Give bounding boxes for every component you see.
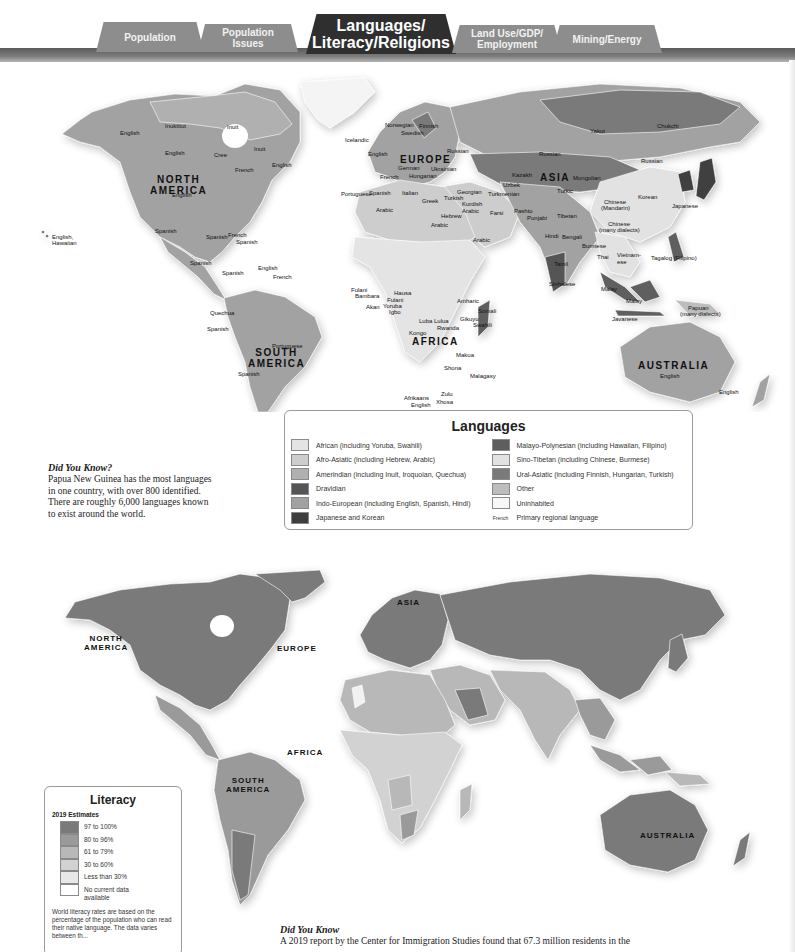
continent-label-africa: AFRICA xyxy=(412,336,459,347)
map-label: French xyxy=(273,274,292,281)
continent-label-africa: AFRICA xyxy=(287,748,323,757)
continent-label-asia: ASIA xyxy=(540,172,570,183)
map-label: Norwegian xyxy=(385,122,414,129)
map-label: Russian xyxy=(641,158,663,165)
languages-legend-title: Languages xyxy=(285,418,692,436)
map-label: Russian xyxy=(447,148,469,155)
legend-swatch xyxy=(492,497,510,509)
map-label: Quechua xyxy=(210,310,234,317)
map-label: Amharic xyxy=(457,298,479,305)
legend-item-afro-asiatic: Afro-Asiatic (including Hebrew, Arabic) xyxy=(291,453,491,468)
legend-swatch xyxy=(291,454,309,466)
map-label: Thai xyxy=(597,254,609,261)
map-label: Bambara xyxy=(355,293,379,300)
legend-column-left: African (including Yoruba, Swahili) Afro… xyxy=(291,438,491,525)
map-label: Hawaiian xyxy=(52,240,77,247)
continent-label-europe: EUROPE xyxy=(400,154,451,165)
map-label: English xyxy=(368,151,388,158)
did-you-know-languages: Did You Know? Papua New Guinea has the m… xyxy=(48,462,278,520)
map-label: Spanish xyxy=(190,260,212,267)
legend-item-ural-asiatic: Ural-Asiatic (including Finnish, Hungari… xyxy=(492,467,692,482)
map-label: Spanish xyxy=(206,234,228,241)
tab-mining-energy[interactable]: Mining/Energy xyxy=(552,25,662,53)
legend-swatch xyxy=(60,834,79,847)
continent-label-europe: EUROPE xyxy=(277,644,317,653)
legend-swatch xyxy=(492,483,510,495)
map-label: Swedish xyxy=(401,130,424,137)
map-label: French xyxy=(380,174,399,181)
map-label: Pashto xyxy=(514,208,533,215)
legend-item-other: Other xyxy=(492,482,692,497)
map-label: Turkic xyxy=(557,188,573,195)
map-label: Spanish xyxy=(207,326,229,333)
literacy-legend-title: Literacy xyxy=(52,793,174,807)
map-label: Yakut xyxy=(590,128,605,135)
map-label: English xyxy=(172,192,192,199)
literacy-legend-note: World literacy rates are based on the pe… xyxy=(52,908,174,940)
legend-swatch xyxy=(492,454,510,466)
map-label: German xyxy=(398,165,420,172)
legend-item-indo-european: Indo-European (including English, Spanis… xyxy=(291,496,491,511)
tab-land-use-gdp-employment[interactable]: Land Use/GDP/ Employment xyxy=(452,25,562,53)
legend-swatch xyxy=(291,439,309,451)
map-label: Finnish xyxy=(419,123,438,130)
map-label: English xyxy=(272,162,292,169)
legend-item-97-100: 97 to 100% xyxy=(60,821,174,834)
map-label: Farsi xyxy=(490,210,503,217)
map-label: Tamil xyxy=(554,261,568,268)
tab-label: Population xyxy=(124,32,176,43)
continent-label-asia: ASIA xyxy=(397,598,420,607)
tab-population[interactable]: Population xyxy=(96,22,204,52)
map-label: Kongo xyxy=(409,330,426,337)
map-label: Russian xyxy=(539,151,561,158)
map-label: Burmese xyxy=(582,243,606,250)
did-you-know-immigration: Did You Know A 2019 report by the Center… xyxy=(280,924,795,948)
tab-label: Literacy/Religions xyxy=(312,34,450,51)
legend-item-primary-language: FrenchPrimary regional language xyxy=(492,511,692,526)
map-label: Xhosa xyxy=(436,399,453,406)
map-label: Tibetan xyxy=(557,213,577,220)
map-label: Luba Lulua xyxy=(419,318,449,325)
map-label: Arabic xyxy=(376,207,393,214)
map-label: English xyxy=(120,130,140,137)
legend-item-30-60: 30 to 60% xyxy=(60,859,174,872)
map-label: Afrikaans xyxy=(404,395,429,402)
did-you-know-heading: Did You Know? xyxy=(48,462,278,474)
map-label: English xyxy=(165,150,185,157)
map-label: Swahili xyxy=(473,322,492,329)
legend-swatch xyxy=(492,468,510,480)
map-label: Hindi xyxy=(545,233,559,240)
map-label: Bengali xyxy=(562,234,582,241)
legend-item-uninhabited: Uninhabited xyxy=(492,496,692,511)
continent-label-australia: AUSTRALIA xyxy=(638,360,709,371)
legend-swatch xyxy=(60,871,79,884)
legend-item-amerindian: Amerindian (including Inuit, Iroquoian, … xyxy=(291,467,491,482)
map-label: Ukrainian xyxy=(431,166,456,173)
map-label: Somali xyxy=(478,308,496,315)
map-label: Zulu xyxy=(441,391,453,398)
map-label: Kurdish xyxy=(462,201,482,208)
languages-map: NORTH AMERICA SOUTH AMERICA EUROPE ASIA … xyxy=(0,62,795,412)
tab-label: Land Use/GDP/ xyxy=(471,28,543,39)
tab-languages-literacy-religions[interactable]: Languages/ Literacy/Religions xyxy=(306,14,456,54)
map-label: Inuit xyxy=(254,146,265,153)
continent-label-north-america: NORTH AMERICA xyxy=(84,634,128,652)
map-label: Japanese xyxy=(672,203,698,210)
map-label: Cree xyxy=(214,152,227,159)
map-label: Inuktitut xyxy=(165,123,186,130)
map-label: Punjabi xyxy=(527,215,547,222)
map-label: Shona xyxy=(444,365,461,372)
legend-swatch xyxy=(291,512,309,524)
legend-item-african: African (including Yoruba, Swahili) xyxy=(291,438,491,453)
map-label: Arabic xyxy=(462,208,479,215)
continent-label-south-america: SOUTH AMERICA xyxy=(248,347,305,369)
literacy-legend: Literacy 2019 Estimates 97 to 100% 80 to… xyxy=(44,786,182,952)
legend-swatch xyxy=(291,497,309,509)
map-label: Igbo xyxy=(389,309,401,316)
legend-swatch xyxy=(291,483,309,495)
tab-label: Employment xyxy=(477,39,537,50)
map-label: Uzbek xyxy=(503,182,520,189)
tab-population-issues[interactable]: Population Issues xyxy=(198,24,298,52)
map-label: Arabic xyxy=(473,237,490,244)
map-label: (Mandarin) xyxy=(601,205,630,212)
